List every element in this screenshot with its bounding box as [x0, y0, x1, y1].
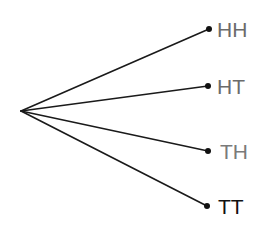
tree-diagram: HHHTTHTT [0, 0, 273, 230]
outcome-dot-tt [204, 203, 210, 209]
outcome-dots [204, 26, 212, 209]
outcome-label-hh: HH [217, 18, 247, 41]
outcome-dot-th [205, 148, 211, 154]
outcome-label-ht: HT [217, 75, 245, 98]
outcome-label-tt: TT [218, 195, 244, 218]
branches [21, 29, 209, 206]
branch-th [21, 111, 208, 151]
outcome-labels: HHHTTHTT [217, 18, 248, 218]
branch-tt [21, 111, 207, 206]
outcome-label-th: TH [220, 140, 248, 163]
outcome-dot-hh [206, 26, 212, 32]
outcome-dot-ht [205, 83, 211, 89]
